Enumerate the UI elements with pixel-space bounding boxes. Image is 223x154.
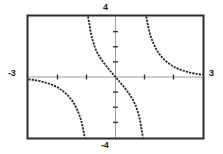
graph-screenshot: 4 -4 -3 3 — [0, 0, 223, 154]
curve-branch — [29, 79, 86, 137]
x-max-label: 3 — [209, 69, 214, 78]
graph-plot — [0, 0, 223, 154]
y-max-label: 4 — [103, 3, 108, 12]
x-min-label: -3 — [8, 69, 16, 78]
y-min-label: -4 — [101, 141, 109, 150]
curve-branch — [146, 17, 203, 75]
